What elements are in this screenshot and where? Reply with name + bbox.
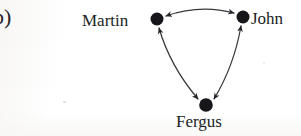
edge-martin-john [166,9,234,16]
node-label-john: John [251,10,283,27]
figure-panel: b) Martin John Fergus [0,0,301,136]
node-fergus [199,98,213,112]
node-label-martin: Martin [82,12,128,29]
node-john [237,11,250,24]
scan-speck [63,101,66,103]
scan-speck [263,62,265,64]
node-label-fergus: Fergus [176,113,222,130]
edge-john-fergus [214,26,241,99]
node-martin [151,13,164,26]
edge-martin-fergus [159,28,198,99]
